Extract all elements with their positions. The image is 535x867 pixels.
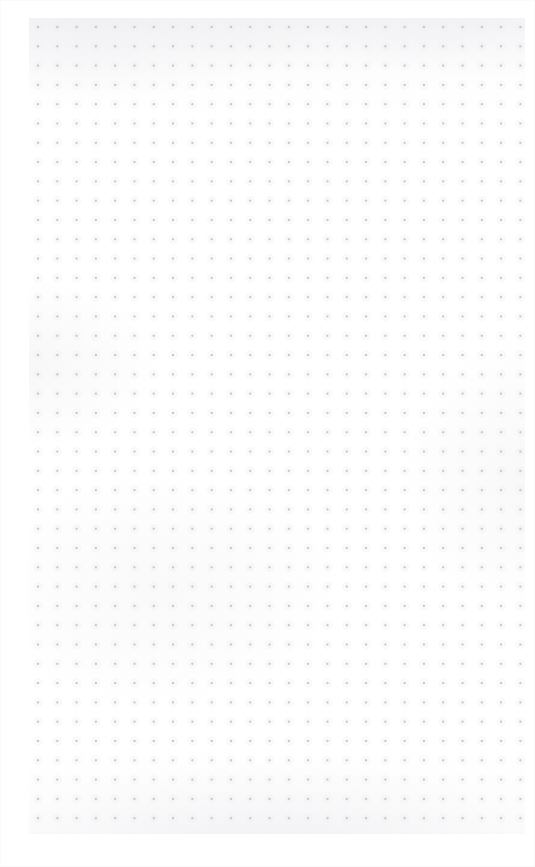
page-margin-left [0,0,29,867]
sheet-edge [0,0,535,867]
dot-grid-layer [0,0,535,867]
paper-texture-layer [0,0,535,867]
page-margin-bottom [0,834,535,867]
dot-grid-page [0,0,535,867]
page-margin-top [0,0,535,18]
dot-grid-halo-layer [0,0,535,867]
page-margin-right [525,0,535,867]
